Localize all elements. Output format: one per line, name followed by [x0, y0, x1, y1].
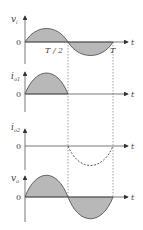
t-label: t [131, 142, 135, 151]
y-label-vi: vi [11, 14, 18, 25]
y-label-io2: io2 [11, 122, 20, 133]
panel-vo: vo 0 t [11, 173, 135, 222]
zero-label: 0 [16, 90, 21, 99]
zero-label: 0 [16, 193, 21, 202]
zero-label: 0 [16, 142, 21, 151]
t-label: t [131, 38, 135, 47]
waveform-diagram: vi 0 T / 2 T t io1 0 t io2 0 t vo 0 t [0, 0, 143, 230]
t-label: t [131, 193, 135, 202]
y-label-io1: io1 [11, 71, 20, 82]
y-label-vo: vo [11, 173, 19, 184]
panel-vi: vi 0 T / 2 T t [11, 14, 135, 64]
period-label: T [110, 46, 116, 55]
panel-io1: io1 0 t [11, 71, 135, 112]
period-guides [68, 42, 113, 197]
panel-io2: io2 0 t [11, 122, 135, 170]
half-period-label: T / 2 [45, 46, 63, 55]
zero-label: 0 [16, 38, 21, 47]
t-label: t [131, 90, 135, 99]
